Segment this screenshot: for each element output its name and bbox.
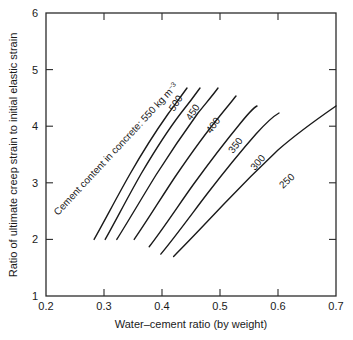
y-tick-label-5: 6 (32, 7, 38, 19)
x-tick-label-3: 0.5 (212, 300, 227, 312)
x-tick-label-2: 0.4 (154, 300, 169, 312)
y-tick-label-2: 3 (32, 177, 38, 189)
y-tick-label-1: 2 (32, 233, 38, 245)
chart-background (0, 0, 353, 340)
x-tick-label-0: 0.2 (38, 300, 53, 312)
y-axis-title: Ratio of ultimate creep strain to initia… (7, 33, 19, 278)
x-tick-label-1: 0.3 (96, 300, 111, 312)
x-tick-label-4: 0.6 (270, 300, 285, 312)
y-tick-label-0: 1 (32, 290, 38, 302)
x-axis-title: Water–cement ratio (by weight) (115, 318, 267, 330)
y-tick-label-3: 4 (32, 120, 38, 132)
y-tick-label-4: 5 (32, 64, 38, 76)
x-tick-label-5: 0.7 (328, 300, 343, 312)
creep-strain-chart: 0.2 0.3 0.4 0.5 0.6 0.7 1 2 3 4 5 6 Wate… (0, 0, 353, 340)
chart-container: 0.2 0.3 0.4 0.5 0.6 0.7 1 2 3 4 5 6 Wate… (0, 0, 353, 340)
